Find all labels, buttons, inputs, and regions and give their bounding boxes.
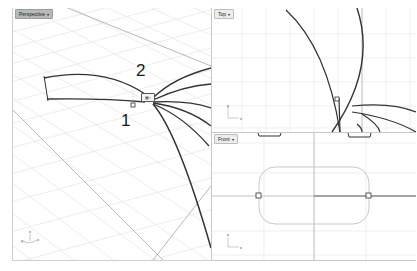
annotation-1: 1 (121, 112, 130, 129)
top-grid (212, 8, 416, 132)
front-viewport[interactable]: z x Front▾ (211, 133, 416, 261)
front-canvas[interactable]: z x (212, 133, 416, 260)
chevron-down-icon[interactable]: ▾ (232, 137, 234, 142)
chevron-down-icon[interactable]: ▾ (228, 12, 230, 17)
annotation-2: 2 (136, 62, 145, 79)
top-canvas[interactable]: y x (212, 8, 416, 132)
svg-text:y: y (21, 238, 23, 243)
chevron-down-icon[interactable]: ▾ (47, 12, 49, 17)
svg-text:z: z (29, 229, 31, 234)
control-point-right (366, 193, 371, 198)
svg-text:x: x (240, 116, 242, 121)
top-curves (286, 8, 416, 132)
front-axis-widget: z x (227, 232, 242, 250)
control-point (335, 97, 339, 101)
svg-text:z: z (227, 232, 229, 237)
perspective-viewport-tab[interactable]: Perspective▾ (15, 9, 53, 19)
perspective-grid (13, 8, 211, 260)
svg-text:x: x (240, 245, 242, 250)
svg-text:y: y (227, 103, 229, 108)
viewport-title: Front (218, 136, 230, 142)
svg-text:x: x (37, 237, 39, 242)
control-point-left (256, 193, 261, 198)
viewport-title: Perspective (19, 11, 45, 17)
viewport-title: Top (218, 11, 226, 17)
perspective-axis-widget: z y x (21, 229, 39, 243)
perspective-viewport[interactable]: z y x Perspective▾ (12, 8, 211, 261)
top-viewport-tab[interactable]: Top▾ (214, 9, 234, 19)
top-viewport[interactable]: y x Top▾ (211, 8, 416, 133)
front-bracket-curves (258, 133, 371, 137)
front-viewport-tab[interactable]: Front▾ (214, 134, 238, 144)
gumball-widget[interactable]: ▦▫ (141, 93, 155, 102)
perspective-canvas[interactable]: z y x (13, 8, 211, 260)
control-point (131, 103, 135, 107)
